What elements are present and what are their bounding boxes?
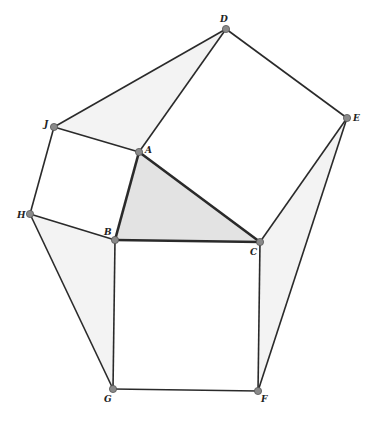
label-f: F bbox=[260, 394, 268, 404]
segment-de bbox=[226, 29, 347, 118]
point-e bbox=[343, 114, 350, 121]
label-g: G bbox=[104, 394, 112, 404]
segment-gf bbox=[113, 389, 258, 391]
segment-jh bbox=[30, 127, 54, 214]
label-b: B bbox=[103, 227, 112, 237]
label-j: J bbox=[42, 119, 49, 129]
point-j bbox=[50, 123, 57, 130]
shaded-triangle-jad bbox=[54, 29, 226, 152]
geometry-diagram: DEJAHBCGF bbox=[0, 0, 373, 426]
point-g bbox=[109, 385, 116, 392]
point-h bbox=[26, 210, 33, 217]
label-d: D bbox=[219, 14, 228, 24]
label-e: E bbox=[352, 113, 360, 123]
point-d bbox=[222, 25, 229, 32]
point-a bbox=[135, 148, 142, 155]
label-h: H bbox=[16, 210, 26, 220]
point-c bbox=[256, 238, 263, 245]
label-c: C bbox=[250, 247, 258, 257]
triangle-abc-fill bbox=[115, 152, 260, 242]
point-b bbox=[111, 236, 118, 243]
label-a: A bbox=[144, 145, 152, 155]
